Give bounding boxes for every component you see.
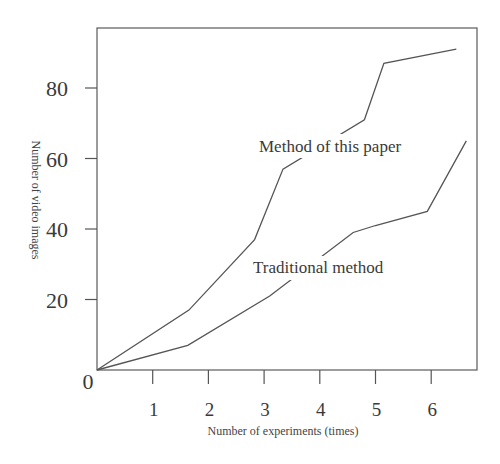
x-tick-label: 3: [260, 399, 270, 420]
y-tick-label: 20: [46, 288, 68, 313]
x-tick-label: 2: [205, 399, 215, 420]
y-tick-label: 40: [46, 217, 68, 242]
series-label-method-of-this-paper: Method of this paper: [259, 137, 401, 156]
line-chart: 20406080 123456 0 Method of this paper T…: [0, 0, 500, 464]
x-axis-title: Number of experiments (times): [208, 424, 359, 438]
x-tick-label: 5: [372, 399, 382, 420]
y-axis-title: Number of video images: [29, 141, 43, 260]
origin-label: 0: [83, 369, 94, 394]
plot-frame: [97, 28, 477, 370]
series-line-method-of-this-paper: [97, 49, 456, 370]
series-label-traditional-method: Traditional method: [253, 258, 384, 277]
y-tick-label: 60: [46, 147, 68, 172]
x-tick-label: 1: [149, 399, 159, 420]
x-tick-label: 4: [316, 399, 326, 420]
y-axis-ticks: 20406080: [46, 76, 97, 313]
series-lines: [97, 49, 466, 370]
x-axis-ticks: 123456: [149, 370, 437, 420]
x-tick-label: 6: [427, 399, 437, 420]
series-line-traditional-method: [97, 141, 466, 370]
y-tick-label: 80: [46, 76, 68, 101]
